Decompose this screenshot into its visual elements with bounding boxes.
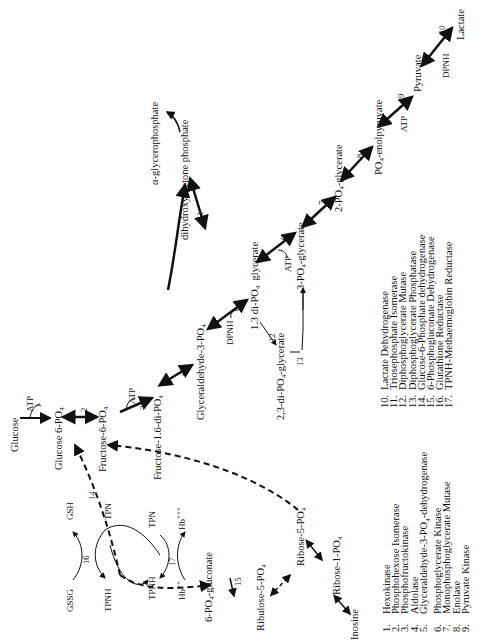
metabolite-fructose-6-po4: Fructose-6-PO4 — [98, 407, 110, 472]
step-17: 17 — [168, 558, 177, 567]
cofactor-tpn-a: TPN — [104, 503, 113, 520]
step-10: 10 — [438, 26, 447, 35]
cofactor-atp-3: ATP — [128, 388, 137, 404]
metabolite-ribulose-5-po4: Ribulose-5-PO4 — [256, 565, 268, 632]
cofactor-gsh: GSH — [66, 502, 75, 520]
metabolite-dihydroxyacetone-phosphate: dihydroxyacetone phosphate — [180, 120, 191, 240]
step-9: 9 — [397, 94, 406, 98]
metabolite-lactate: Lactate — [456, 9, 467, 40]
metabolite-fructose-1-6-di-po4: Fructose-1.6-di-PO4 — [153, 395, 165, 480]
step-3: 3 — [139, 406, 148, 410]
legend-enzymes-10-17: 10.Lactate Dehydrogenase 11.Triosephosph… — [380, 235, 454, 408]
cofactor-tpn-b: TPN — [148, 511, 157, 528]
metabolite-glyceraldehyde-3-po4: Glyceraldehyde-3-PO4 — [196, 324, 208, 420]
legend-item: 9.Pyruvate Kinase — [461, 452, 470, 632]
step-4: 4 — [178, 372, 187, 376]
step-8: 8 — [356, 154, 365, 158]
metabolite-inosine: Inosine — [350, 609, 361, 640]
cofactor-atp-6: ATP — [284, 256, 293, 272]
cofactor-gssg: GSSG — [66, 589, 75, 612]
metabolite-2-3-di-po4-glycerate: 2,3-di-PO4-glycerate — [276, 333, 288, 420]
cofactor-hb-3: Hb+++ — [176, 507, 187, 530]
metabolite-3-po4-glycerate: 3-PO4-glycerate — [296, 222, 308, 290]
step-11: 11 — [196, 212, 205, 220]
step-5: 5 — [234, 301, 243, 305]
arrow-step-13 — [290, 290, 303, 352]
metabolite-2-po4-glycerate: 2-PO4-glycerate — [334, 144, 346, 212]
metabolite-po4-enolpyruvate: PO4-enolpyruvate — [374, 100, 386, 175]
cofactor-tpnh-b: TPNH — [148, 576, 157, 600]
step-7: 7 — [318, 201, 327, 205]
metabolite-ribose-5-po4: Ribose-5-PO4 — [296, 508, 308, 566]
step-16: 16 — [82, 556, 91, 565]
legend-item: 17.TPNH-Methaemoglobin Reductase — [444, 235, 453, 408]
step-6: 6 — [280, 236, 289, 240]
arrow-step-8 — [348, 147, 372, 173]
step-13: 13 — [296, 358, 305, 367]
cofactor-dpnh-5: DPNH — [226, 320, 235, 345]
metabolite-ribose-1-po4: Ribose-1-PO4 — [332, 537, 344, 595]
cofactor-hb-2: Hb++ — [176, 581, 187, 600]
metabolite-pyruvate: Pyruvate — [413, 55, 424, 92]
metabolite-glucose-6-po4: Glucose 6-PO4 — [54, 407, 66, 470]
arrow-step-11 — [193, 188, 205, 228]
metabolite-glucose: Glucose — [10, 418, 21, 452]
legend-item: 5.Glyceraldehyde-3-PO4-dehydrogenase — [419, 452, 433, 632]
step-15: 15 — [234, 578, 243, 587]
step-2: 2 — [80, 408, 89, 412]
cofactor-tpnh-a: TPNH — [104, 588, 113, 612]
metabolite-6-po4-gluconate: 6-PO4-gluconate — [204, 552, 216, 622]
cofactor-atp-9: ATP — [400, 116, 409, 132]
step-1: 1 — [34, 404, 43, 408]
metabolite-alpha-glycerophosphate: α-glycerophosphate — [150, 102, 161, 185]
metabolite-1-3-di-po4-glycerate: 1.3 di-PO4 glycerate — [250, 242, 262, 330]
cofactor-dpnh-10: DPNH — [442, 53, 451, 78]
legend-enzymes-1-9: 1.Hexokinase 2.Phosphohexose Isomerase 3… — [382, 452, 470, 632]
step-14: 14 — [88, 492, 97, 501]
step-12: 12 — [268, 334, 277, 343]
